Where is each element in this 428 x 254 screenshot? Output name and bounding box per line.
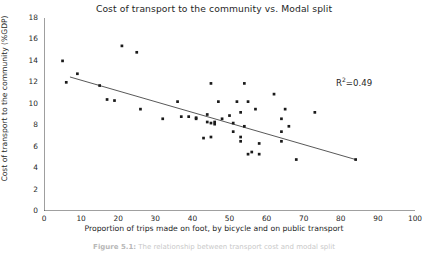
y-tick-label: 12 bbox=[16, 78, 38, 86]
x-tick-label: 0 bbox=[31, 215, 57, 223]
x-tick-label: 50 bbox=[217, 215, 243, 223]
scatter-point bbox=[206, 113, 209, 116]
data-points bbox=[61, 45, 357, 161]
x-tick-label: 60 bbox=[254, 215, 280, 223]
scatter-point bbox=[232, 122, 235, 125]
scatter-point bbox=[176, 100, 179, 103]
scatter-point bbox=[280, 117, 283, 120]
scatter-point bbox=[161, 117, 164, 120]
y-tick-label: 14 bbox=[16, 57, 38, 65]
scatter-point bbox=[228, 114, 231, 117]
scatter-point bbox=[76, 72, 79, 75]
x-tick-label: 70 bbox=[291, 215, 317, 223]
scatter-point bbox=[113, 99, 116, 102]
trendline bbox=[70, 77, 356, 160]
scatter-point bbox=[280, 140, 283, 143]
scatter-point bbox=[239, 111, 242, 114]
scatter-point bbox=[243, 125, 246, 128]
scatter-point bbox=[273, 93, 276, 96]
scatter-point bbox=[213, 123, 216, 126]
scatter-point bbox=[221, 117, 224, 120]
scatter-point bbox=[210, 122, 213, 125]
scatter-point bbox=[280, 130, 283, 133]
scatter-point bbox=[187, 115, 190, 118]
scatter-point bbox=[250, 151, 253, 154]
figure-caption: Figure 5.1: The relationship between tra… bbox=[0, 243, 428, 252]
scatter-point bbox=[65, 81, 68, 84]
scatter-point bbox=[206, 121, 209, 124]
x-axis-title: Proportion of trips made on foot, by bic… bbox=[0, 224, 428, 233]
scatter-point bbox=[288, 125, 291, 128]
scatter-point bbox=[180, 115, 183, 118]
y-tick-label: 0 bbox=[16, 207, 38, 215]
r-squared-annotation: R2=0.49 bbox=[336, 76, 372, 88]
scatter-point bbox=[232, 130, 235, 133]
trendline-segment bbox=[70, 77, 356, 160]
figure-scatter-chart: Cost of transport to the community vs. M… bbox=[0, 0, 428, 254]
scatter-point bbox=[139, 108, 142, 111]
scatter-point bbox=[243, 82, 246, 85]
scatter-point bbox=[258, 153, 261, 156]
r-squared-value: =0.49 bbox=[346, 78, 372, 88]
scatter-point bbox=[354, 158, 357, 161]
y-tick-label: 4 bbox=[16, 164, 38, 172]
y-tick-label: 6 bbox=[16, 143, 38, 151]
y-tick-label: 8 bbox=[16, 121, 38, 129]
scatter-point bbox=[195, 116, 198, 119]
y-tick-label: 18 bbox=[16, 14, 38, 22]
scatter-point bbox=[61, 60, 64, 63]
x-tick-label: 80 bbox=[328, 215, 354, 223]
figure-caption-label: Figure 5.1: bbox=[93, 243, 136, 251]
x-tick-label: 100 bbox=[402, 215, 428, 223]
scatter-point bbox=[254, 108, 257, 111]
y-tick-label: 2 bbox=[16, 186, 38, 194]
scatter-point bbox=[239, 140, 242, 143]
scatter-point bbox=[135, 51, 138, 54]
scatter-point bbox=[313, 111, 316, 114]
scatter-point bbox=[121, 45, 124, 48]
scatter-point bbox=[202, 137, 205, 140]
scatter-point bbox=[239, 136, 242, 139]
scatter-point bbox=[247, 153, 250, 156]
scatter-point bbox=[295, 158, 298, 161]
scatter-point bbox=[236, 100, 239, 103]
plot-area bbox=[44, 18, 415, 211]
scatter-point bbox=[247, 100, 250, 103]
x-tick-label: 30 bbox=[142, 215, 168, 223]
scatter-point bbox=[258, 142, 261, 145]
chart-canvas bbox=[44, 18, 415, 211]
scatter-point bbox=[217, 100, 220, 103]
scatter-point bbox=[210, 82, 213, 85]
x-tick-label: 20 bbox=[105, 215, 131, 223]
scatter-point bbox=[210, 136, 213, 139]
x-tick-label: 10 bbox=[68, 215, 94, 223]
y-tick-label: 16 bbox=[16, 35, 38, 43]
figure-caption-text: The relationship between transport cost … bbox=[138, 243, 335, 251]
chart-title: Cost of transport to the community vs. M… bbox=[0, 3, 428, 14]
scatter-point bbox=[98, 84, 101, 87]
scatter-point bbox=[284, 108, 287, 111]
y-axis-title: Cost of transport to the community (%GDP… bbox=[0, 0, 9, 199]
x-tick-label: 90 bbox=[365, 215, 391, 223]
scatter-point bbox=[106, 98, 109, 101]
x-tick-label: 40 bbox=[179, 215, 205, 223]
y-tick-label: 10 bbox=[16, 100, 38, 108]
